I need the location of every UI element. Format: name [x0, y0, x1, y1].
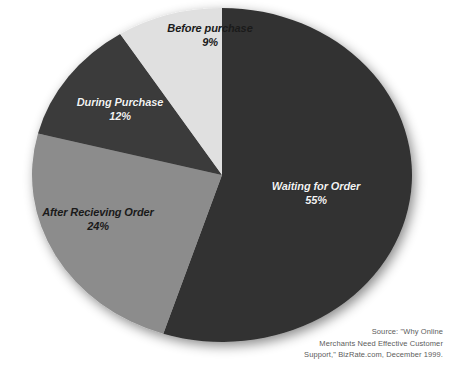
pie-texture-overlay — [0, 0, 449, 368]
source-citation-line-3: Support," BizRate.com, December 1999. — [253, 349, 443, 360]
source-citation-line-1: Source: "Why Online — [253, 326, 443, 337]
source-citation: Source: "Why Online Merchants Need Effec… — [253, 326, 443, 360]
pie-chart-svg — [0, 0, 449, 368]
pie-chart-area: Before purchase 9% During Purchase 12% A… — [0, 0, 449, 368]
source-citation-line-2: Merchants Need Effective Customer — [253, 338, 443, 349]
pie-chart-figure: Before purchase 9% During Purchase 12% A… — [0, 0, 449, 368]
